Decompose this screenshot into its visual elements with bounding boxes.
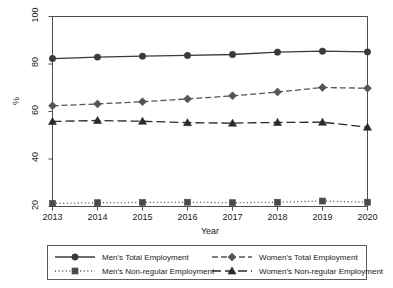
legend-label-womens-total: Women's Total Employment <box>259 253 358 262</box>
data-point-marker <box>320 198 326 204</box>
data-point-marker <box>230 200 236 206</box>
y-tick-label: 100 <box>30 2 40 28</box>
legend-key-womens-nonregular <box>211 265 253 277</box>
x-axis-title: Year <box>52 226 368 236</box>
data-point-marker <box>184 95 192 103</box>
data-point-marker <box>49 102 57 110</box>
series-3 <box>49 117 372 131</box>
data-point-marker <box>365 199 371 205</box>
legend-key-mens-total <box>54 251 96 263</box>
legend-entry-mens-nonregular: Men's Non-regular Employment <box>54 264 214 278</box>
y-tick-label: 80 <box>30 49 40 75</box>
legend-entry-womens-total: Women's Total Employment <box>211 250 358 264</box>
x-tick-label: 2016 <box>168 212 208 222</box>
data-point-marker <box>95 200 101 206</box>
data-point-marker <box>274 49 280 55</box>
chart-legend: Men's Total Employment Women's Total Emp… <box>47 245 367 280</box>
data-point-marker <box>72 268 78 274</box>
data-point-marker <box>229 92 237 100</box>
legend-label-womens-nonregular: Women's Non-regular Employment <box>259 267 383 276</box>
x-axis-ticks <box>53 207 368 211</box>
data-point-marker <box>228 253 236 261</box>
data-point-marker <box>364 84 372 92</box>
y-tick-label: 40 <box>30 144 40 170</box>
x-tick-label: 2017 <box>213 212 253 222</box>
x-tick-label: 2015 <box>123 212 163 222</box>
legend-entry-womens-nonregular: Women's Non-regular Employment <box>211 264 383 278</box>
legend-label-mens-nonregular: Men's Non-regular Employment <box>102 267 214 276</box>
data-point-marker <box>94 100 102 108</box>
legend-key-womens-total <box>211 251 253 263</box>
data-point-marker <box>274 88 282 96</box>
data-point-marker <box>185 199 191 205</box>
data-point-marker <box>72 254 78 260</box>
legend-key-mens-nonregular <box>54 265 96 277</box>
y-axis-title: % <box>11 89 21 113</box>
x-tick-label: 2018 <box>258 212 298 222</box>
legend-label-mens-total: Men's Total Employment <box>102 253 189 262</box>
data-point-marker <box>94 54 100 60</box>
data-point-marker <box>139 98 147 106</box>
data-point-marker <box>49 55 55 61</box>
y-axis-ticks <box>49 17 53 207</box>
data-point-marker <box>319 48 325 54</box>
data-point-marker <box>139 53 145 59</box>
series-1 <box>49 84 372 110</box>
x-tick-label: 2020 <box>348 212 388 222</box>
data-point-marker <box>229 51 235 57</box>
x-tick-label: 2014 <box>78 212 118 222</box>
plot-border <box>53 17 368 207</box>
y-tick-label: 60 <box>30 97 40 123</box>
data-point-marker <box>184 52 190 58</box>
x-tick-label: 2013 <box>33 212 73 222</box>
data-point-marker <box>140 199 146 205</box>
data-point-marker <box>319 84 327 92</box>
x-tick-label: 2019 <box>303 212 343 222</box>
series-2 <box>50 198 371 206</box>
chart-figure: % Year 20406080100 201320142015201620172… <box>0 0 393 288</box>
data-point-marker <box>364 49 370 55</box>
series-0 <box>49 48 370 62</box>
data-point-marker <box>50 200 56 206</box>
data-point-marker <box>275 199 281 205</box>
legend-entry-mens-total: Men's Total Employment <box>54 250 189 264</box>
data-series-layer <box>49 48 372 206</box>
